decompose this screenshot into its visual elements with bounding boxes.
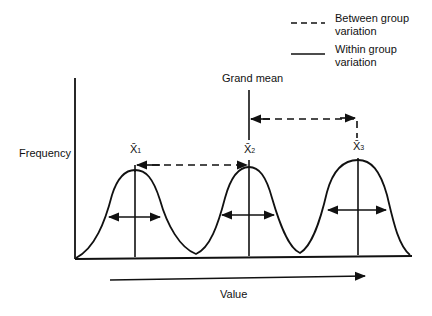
legend-within-label-1: Within group bbox=[335, 43, 397, 56]
y-axis-label: Frequency bbox=[19, 147, 71, 160]
legend-within-label-2: variation bbox=[335, 56, 377, 69]
mean-label-2: X̄2 bbox=[244, 143, 255, 157]
between-arrow-1-2 bbox=[135, 165, 247, 172]
grand-mean-label: Grand mean bbox=[222, 72, 283, 85]
legend-between-label-1: Between group bbox=[335, 12, 409, 25]
mean-label-1: X̄1 bbox=[130, 143, 141, 157]
mean-label-3: X̄3 bbox=[353, 140, 364, 154]
distribution-curves bbox=[76, 160, 410, 258]
value-arrow bbox=[110, 276, 365, 280]
x-axis bbox=[75, 256, 412, 259]
legend-between-label-2: variation bbox=[335, 25, 377, 38]
between-arrow-2-3 bbox=[251, 119, 357, 138]
x-axis-label: Value bbox=[220, 288, 247, 301]
